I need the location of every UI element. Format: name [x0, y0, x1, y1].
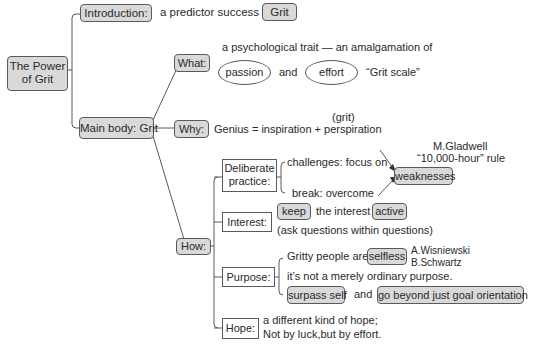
grit-label: Grit	[270, 6, 289, 18]
interest-note: (ask questions within questions)	[277, 224, 433, 237]
keep-label: keep	[282, 205, 306, 217]
author-schwartz: B.Schwartz	[411, 257, 462, 268]
hope-line1: a different kind of hope;	[263, 314, 378, 327]
how-node[interactable]: How:	[176, 238, 211, 255]
hope-node[interactable]: Hope:	[222, 318, 259, 339]
root-label-line2: of Grit	[8, 73, 67, 86]
what-node[interactable]: What:	[174, 54, 210, 72]
active-label: active	[375, 205, 404, 217]
weaknesses-label: weaknesses	[395, 170, 456, 182]
introduction-label: Introduction:	[84, 7, 147, 19]
why-formula: Genius = inspiration + perspiration	[214, 123, 382, 136]
go-beyond-label: go beyond just goal orientation	[378, 289, 528, 301]
passion-oval[interactable]: passion	[218, 60, 271, 85]
surpass-self-label: surpass self	[288, 289, 347, 301]
selfless-node[interactable]: selfless	[367, 248, 407, 265]
what-label: What:	[178, 57, 207, 69]
weaknesses-node[interactable]: weaknesses	[394, 167, 453, 185]
author-wisniewski: A.Wisniewski	[411, 245, 470, 256]
main-body-node[interactable]: Main body: Grit	[79, 117, 154, 139]
gritty-people-text: Gritty people are	[287, 250, 368, 263]
root-label-line1: The Power	[8, 60, 67, 73]
purpose-node[interactable]: Purpose:	[222, 267, 275, 287]
break-text: break: overcome	[292, 187, 374, 200]
main-body-label: Main body: Grit	[80, 122, 158, 134]
keep-node[interactable]: keep	[277, 203, 311, 220]
what-and: and	[279, 66, 297, 79]
interest-middle-text: the interest	[316, 205, 370, 218]
active-node[interactable]: active	[372, 203, 407, 220]
ordinary-purpose-text: it’s not a merely ordinary purpose.	[287, 270, 453, 283]
hope-line2: Not by luck,but by effort.	[263, 328, 381, 341]
hope-label: Hope:	[226, 322, 255, 334]
grit-scale-note: “Grit scale”	[366, 66, 420, 79]
deliberate-label-line2: practice:	[223, 175, 276, 188]
why-label: Why:	[179, 123, 204, 135]
effort-oval[interactable]: effort	[305, 60, 358, 85]
surpass-self-node[interactable]: surpass self	[287, 286, 345, 304]
effort-label: effort	[319, 66, 344, 78]
interest-node[interactable]: Interest:	[222, 212, 272, 232]
how-label: How:	[181, 240, 206, 252]
passion-label: passion	[226, 66, 264, 78]
challenges-text: challenges: focus on	[287, 156, 387, 169]
selfless-label: selfless	[369, 250, 406, 262]
deliberate-label-line1: Deliberate	[223, 162, 276, 175]
purpose-and: and	[354, 288, 372, 301]
go-beyond-node[interactable]: go beyond just goal orientation	[377, 286, 524, 304]
why-node[interactable]: Why:	[174, 120, 209, 138]
deliberate-practice-node[interactable]: Deliberate practice:	[222, 159, 277, 192]
what-description: a psychological trait — an amalgamation …	[222, 41, 432, 54]
ten-thousand-hour-rule: “10,000-hour” rule	[417, 152, 505, 165]
purpose-label: Purpose:	[226, 271, 270, 283]
introduction-node[interactable]: Introduction:	[80, 4, 152, 22]
introduction-text: a predictor success —	[160, 6, 274, 19]
interest-label: Interest:	[227, 216, 267, 228]
grit-node[interactable]: Grit	[262, 3, 297, 21]
root-node[interactable]: The Power of Grit	[7, 56, 68, 91]
